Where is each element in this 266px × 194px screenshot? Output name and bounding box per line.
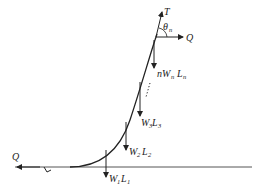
q-top-label: Q: [186, 32, 194, 43]
svg-text:L: L: [176, 68, 183, 79]
angle-sub: n: [169, 26, 172, 33]
svg-text:n: n: [171, 73, 174, 80]
w1-label: W 1 L 1: [109, 173, 130, 185]
svg-text:3: 3: [157, 122, 162, 129]
tension-label: T: [164, 6, 171, 17]
tension-arrow: [156, 12, 162, 37]
angle-label: θ: [163, 21, 168, 32]
wn-label: nW n L n: [157, 68, 186, 80]
svg-text:nW: nW: [157, 68, 172, 79]
q-bottom-label: Q: [12, 151, 20, 162]
svg-text:1: 1: [127, 178, 130, 185]
svg-text:2: 2: [137, 151, 141, 158]
w3-label: W 3 L 3: [141, 117, 162, 129]
anchor-icon: [44, 167, 51, 172]
svg-text:n: n: [183, 73, 186, 80]
svg-text:1: 1: [117, 178, 120, 185]
w2-label: W 2 L 2: [129, 146, 152, 158]
cable-force-diagram: T θ n Q nW n L n W 3 L 3 W 2 L 2 W 1 L 1…: [0, 0, 266, 194]
svg-text:L: L: [141, 146, 148, 157]
svg-text:2: 2: [148, 151, 152, 158]
svg-text:L: L: [151, 117, 158, 128]
ellipsis-dots: [146, 83, 150, 97]
svg-text:L: L: [120, 173, 127, 184]
